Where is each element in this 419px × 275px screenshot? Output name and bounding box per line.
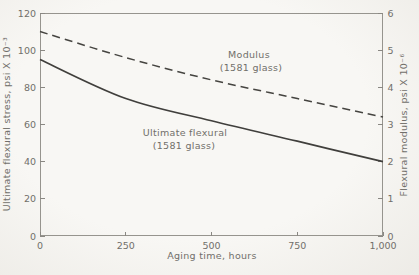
left-axis-title: Ultimate flexural stress, psi X 10⁻³ bbox=[1, 37, 12, 211]
right-axis-tick-label: 6 bbox=[388, 8, 394, 19]
x-axis-tick-label: 250 bbox=[117, 240, 135, 251]
left-axis-tick-label: 120 bbox=[18, 8, 36, 19]
x-axis-tick-label: 500 bbox=[202, 240, 220, 251]
left-axis-tick-label: 20 bbox=[24, 193, 36, 204]
flexural-aging-chart-figure: 020406080100120012345602505007501,000 Ag… bbox=[0, 0, 419, 275]
left-axis-tick-label: 60 bbox=[24, 119, 36, 130]
right-axis-tick-label: 4 bbox=[388, 82, 394, 93]
x-axis-tick-label: 750 bbox=[288, 240, 306, 251]
right-axis-tick-label: 1 bbox=[388, 193, 394, 204]
right-axis-tick-label: 2 bbox=[388, 156, 394, 167]
modulus-curve bbox=[40, 32, 383, 118]
left-axis-tick-label: 80 bbox=[24, 82, 36, 93]
right-axis-title: Flexural modulus, psi X 10⁻⁶ bbox=[398, 53, 409, 196]
x-axis-title: Aging time, hours bbox=[167, 250, 257, 261]
modulus-curve-label-line2: (1581 glass) bbox=[220, 62, 283, 73]
right-axis-tick-label: 3 bbox=[388, 119, 394, 130]
left-axis-tick-label: 100 bbox=[18, 45, 36, 56]
modulus-curve-label-line1: Modulus bbox=[228, 49, 270, 60]
x-axis-tick-label: 1,000 bbox=[369, 240, 396, 251]
flexural-curve-label-line2: (1581 glass) bbox=[153, 140, 216, 151]
right-axis-tick-label: 5 bbox=[388, 45, 394, 56]
chart-canvas: 020406080100120012345602505007501,000 Ag… bbox=[0, 0, 419, 275]
left-axis-tick-label: 40 bbox=[24, 156, 36, 167]
x-axis-tick-label: 0 bbox=[37, 240, 43, 251]
left-axis-tick-label: 0 bbox=[30, 231, 36, 242]
flexural-curve-label-line1: Ultimate flexural bbox=[143, 127, 227, 138]
